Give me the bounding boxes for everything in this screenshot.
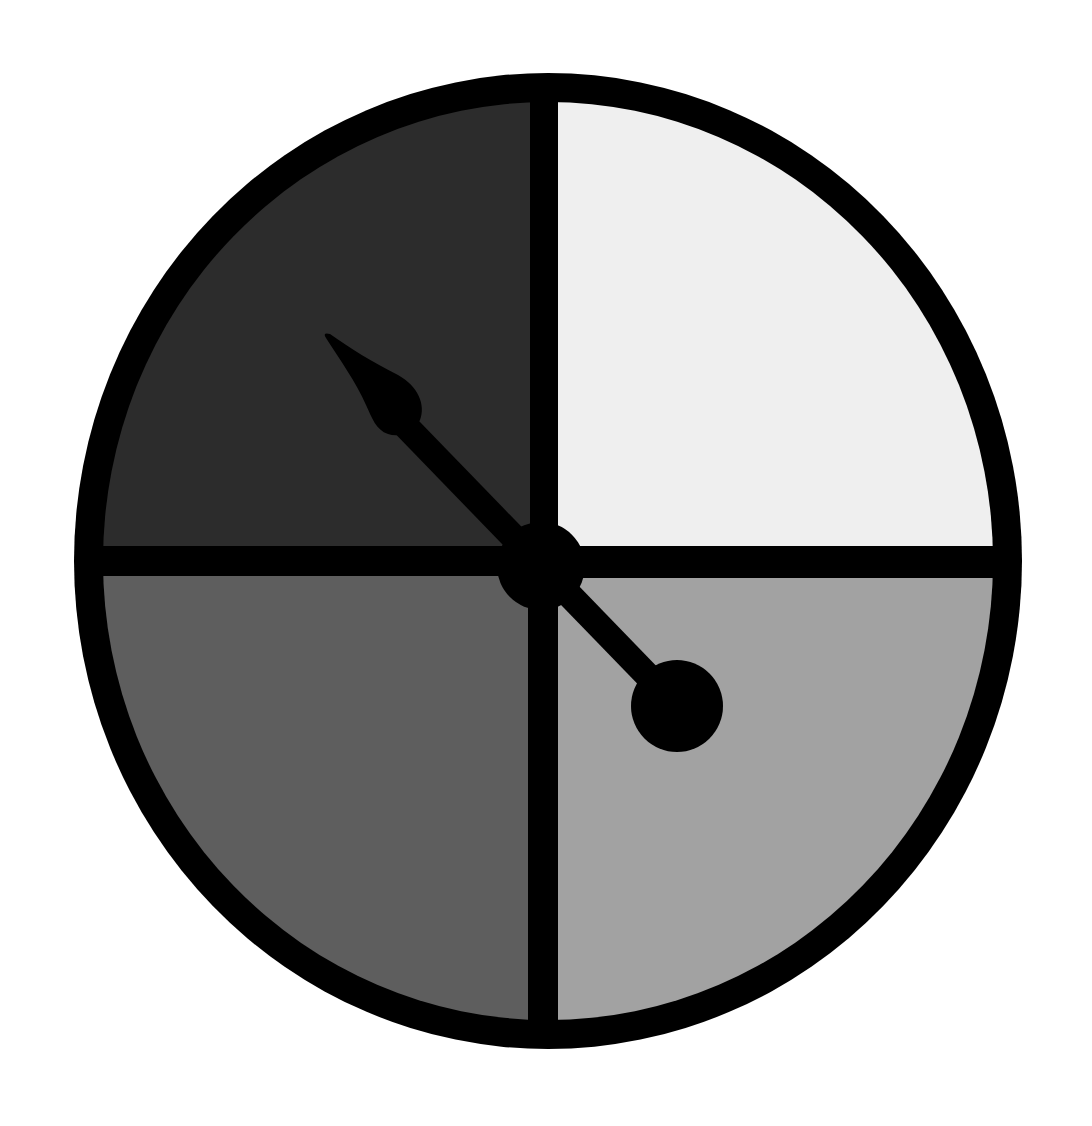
spinner-svg bbox=[0, 0, 1092, 1126]
section-bottom-left bbox=[0, 574, 528, 1126]
arrow-tail-ball bbox=[631, 660, 723, 752]
spinner-figure: Four-section spinner with arrow bbox=[0, 0, 1092, 1126]
center-hub bbox=[497, 522, 585, 610]
